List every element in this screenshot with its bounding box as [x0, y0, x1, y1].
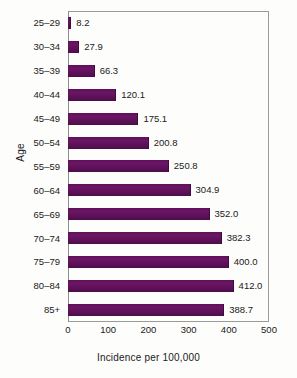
bar — [68, 65, 95, 77]
y-axis-tick-label: 75–79 — [14, 250, 64, 274]
y-axis-tick-label: 50–54 — [14, 131, 64, 155]
bar — [68, 41, 79, 53]
bar-value-label: 388.7 — [224, 305, 253, 315]
bar-value-label: 352.0 — [210, 210, 239, 220]
bar-row: 200.8 — [68, 131, 269, 155]
bar-value-label: 304.9 — [191, 186, 220, 196]
y-axis-tick-label: 30–34 — [14, 35, 64, 59]
bar — [68, 280, 234, 292]
bars-layer: 8.227.966.3120.1175.1200.8250.8304.9352.… — [68, 11, 269, 322]
y-axis-tick-labels: 25–2930–3435–3940–4445–4950–5455–5960–64… — [14, 11, 64, 322]
bar — [68, 232, 222, 244]
y-axis-tick-label: 55–59 — [14, 155, 64, 179]
bar-value-label: 200.8 — [149, 138, 178, 148]
x-axis-tick-label: 500 — [261, 325, 277, 335]
y-axis-tick-label: 35–39 — [14, 59, 64, 83]
bar-row: 412.0 — [68, 274, 269, 298]
y-axis-tick-label: 80–84 — [14, 274, 64, 298]
bar — [68, 256, 229, 268]
y-axis-tick-label: 40–44 — [14, 83, 64, 107]
bar-value-label: 66.3 — [95, 66, 119, 76]
y-axis-tick-label: 60–64 — [14, 178, 64, 202]
y-axis-tick-label: 70–74 — [14, 226, 64, 250]
y-axis-tick-label: 85+ — [14, 298, 64, 322]
bar — [68, 184, 191, 196]
bar-value-label: 250.8 — [169, 162, 198, 172]
bar-value-label: 120.1 — [116, 90, 145, 100]
bar-row: 27.9 — [68, 35, 269, 59]
x-axis-tick-labels: 0100200300400500 — [68, 325, 269, 339]
bar-row: 66.3 — [68, 59, 269, 83]
y-axis-tick-label: 65–69 — [14, 202, 64, 226]
bar-row: 8.2 — [68, 11, 269, 35]
bar-row: 352.0 — [68, 202, 269, 226]
bar-value-label: 400.0 — [229, 257, 258, 267]
x-axis-title: Incidence per 100,000 — [0, 352, 297, 363]
bar — [68, 208, 210, 220]
bar — [68, 137, 149, 149]
x-axis-tick-label: 200 — [140, 325, 156, 335]
bar — [68, 113, 138, 125]
bar-row: 304.9 — [68, 178, 269, 202]
bar-value-label: 382.3 — [222, 234, 251, 244]
bar-chart: Age 25–2930–3435–3940–4445–4950–5455–596… — [0, 0, 297, 378]
x-axis-tick-label: 300 — [181, 325, 197, 335]
bar-row: 400.0 — [68, 250, 269, 274]
y-axis-tick-label: 45–49 — [14, 107, 64, 131]
x-axis-tick-label: 100 — [100, 325, 116, 335]
bar-value-label: 8.2 — [71, 18, 89, 28]
bar-value-label: 175.1 — [138, 114, 167, 124]
bar-row: 120.1 — [68, 83, 269, 107]
bar-row: 175.1 — [68, 107, 269, 131]
bar-value-label: 412.0 — [234, 281, 263, 291]
bar — [68, 160, 169, 172]
bar-value-label: 27.9 — [79, 42, 103, 52]
bar-row: 388.7 — [68, 298, 269, 322]
x-axis-tick-label: 400 — [221, 325, 237, 335]
x-axis-tick-label: 0 — [65, 325, 70, 335]
bar-row: 250.8 — [68, 155, 269, 179]
y-axis-tick-label: 25–29 — [14, 11, 64, 35]
bar — [68, 304, 224, 316]
bar — [68, 89, 116, 101]
bar-row: 382.3 — [68, 226, 269, 250]
